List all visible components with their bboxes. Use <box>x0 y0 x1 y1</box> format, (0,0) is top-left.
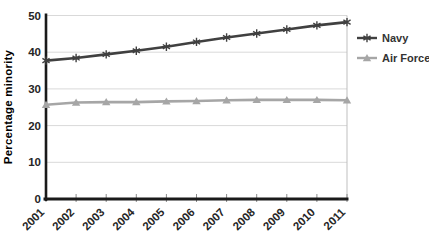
x-tick-label: 2005 <box>140 206 167 233</box>
x-tick-label: 2009 <box>261 206 288 233</box>
y-tick-label: 10 <box>28 156 41 168</box>
x-tick-label: 2010 <box>291 206 318 233</box>
y-tick-label: 40 <box>28 46 41 58</box>
legend-label-air-force: Air Force <box>382 52 429 64</box>
legend-item-navy: Navy <box>356 31 429 45</box>
x-tick-label: 2003 <box>80 206 107 233</box>
air-force-legend-key-icon <box>356 52 378 64</box>
x-tick-label: 2006 <box>170 206 197 233</box>
y-tick-label: 0 <box>35 193 41 205</box>
legend: NavyAir Force <box>356 31 429 65</box>
x-tick-label: 2002 <box>50 206 77 233</box>
x-tick-label: 2007 <box>200 206 227 233</box>
y-tick-label: 30 <box>28 83 41 95</box>
y-tick-label: 50 <box>28 10 41 22</box>
x-tick-label: 2001 <box>20 206 47 233</box>
navy-legend-key-icon <box>356 32 378 44</box>
legend-label-navy: Navy <box>382 32 408 44</box>
x-tick-label: 2004 <box>110 206 137 233</box>
x-tick-label: 2008 <box>231 206 258 233</box>
y-tick-label: 20 <box>28 120 41 132</box>
legend-item-air-force: Air Force <box>356 51 429 65</box>
x-tick-label: 2011 <box>321 206 348 233</box>
y-axis-title: Percentage minority <box>2 49 14 164</box>
line-chart: Percentage minority 01020304050200120022… <box>0 0 429 238</box>
